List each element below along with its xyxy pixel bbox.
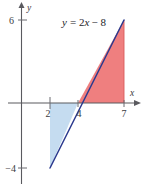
y-tick-label-6: 6 [9,15,14,26]
equation-annotation: y=2x− 8 [61,16,106,28]
x-tick-label-4: 4 [77,108,82,119]
equation-equals: = [70,16,76,28]
equation-remainder: − 8 [92,16,107,28]
equation-lhs: y [61,16,67,28]
y-tick-label-neg4: −4 [5,163,16,174]
x-tick-label-2: 2 [46,108,51,119]
x-axis-arrow-icon [134,100,141,106]
x-tick-label-7: 7 [122,108,127,119]
equation-variable: x [84,16,90,28]
line-graph-svg: x y 6 −4 2 4 7 y=2x− 8 [0,0,150,190]
x-axis-label: x [129,88,135,98]
y-axis-arrow-icon [19,2,25,8]
figure-container: x y 6 −4 2 4 7 y=2x− 8 [0,0,150,190]
y-axis-label: y [26,3,32,13]
